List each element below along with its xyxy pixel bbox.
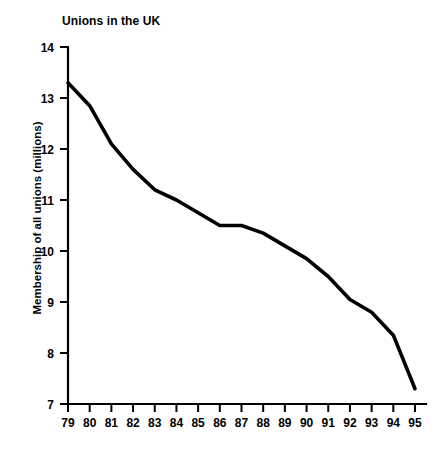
- y-tick-label: 12: [41, 143, 55, 157]
- x-tick-label: 83: [148, 416, 162, 430]
- y-tick-label: 7: [47, 398, 54, 412]
- x-tick-label: 94: [387, 416, 401, 430]
- x-tick-label: 84: [170, 416, 184, 430]
- x-axis-ticks: 7980818283848586878889909192939495: [61, 404, 422, 430]
- x-tick-label: 82: [126, 416, 140, 430]
- x-tick-label: 85: [191, 416, 205, 430]
- x-tick-label: 92: [343, 416, 357, 430]
- y-tick-label: 10: [41, 245, 55, 259]
- x-tick-label: 80: [83, 416, 97, 430]
- x-tick-label: 90: [300, 416, 314, 430]
- x-tick-label: 91: [322, 416, 336, 430]
- x-tick-label: 86: [213, 416, 227, 430]
- x-tick-label: 88: [257, 416, 271, 430]
- y-tick-label: 13: [41, 92, 55, 106]
- y-tick-label: 11: [41, 194, 54, 208]
- x-tick-label: 95: [408, 416, 422, 430]
- y-tick-label: 14: [41, 41, 55, 55]
- data-series-line: [68, 83, 415, 389]
- x-tick-label: 87: [235, 416, 249, 430]
- x-tick-label: 79: [61, 416, 75, 430]
- x-tick-label: 93: [365, 416, 379, 430]
- x-tick-label: 89: [278, 416, 292, 430]
- line-chart-plot: 7891011121314 79808182838485868788899091…: [0, 0, 448, 449]
- chart-page: Unions in the UK Membership of all union…: [0, 0, 448, 449]
- x-tick-label: 81: [105, 416, 119, 430]
- y-tick-label: 8: [47, 347, 54, 361]
- y-axis-ticks: 7891011121314: [41, 41, 68, 412]
- y-tick-label: 9: [47, 296, 54, 310]
